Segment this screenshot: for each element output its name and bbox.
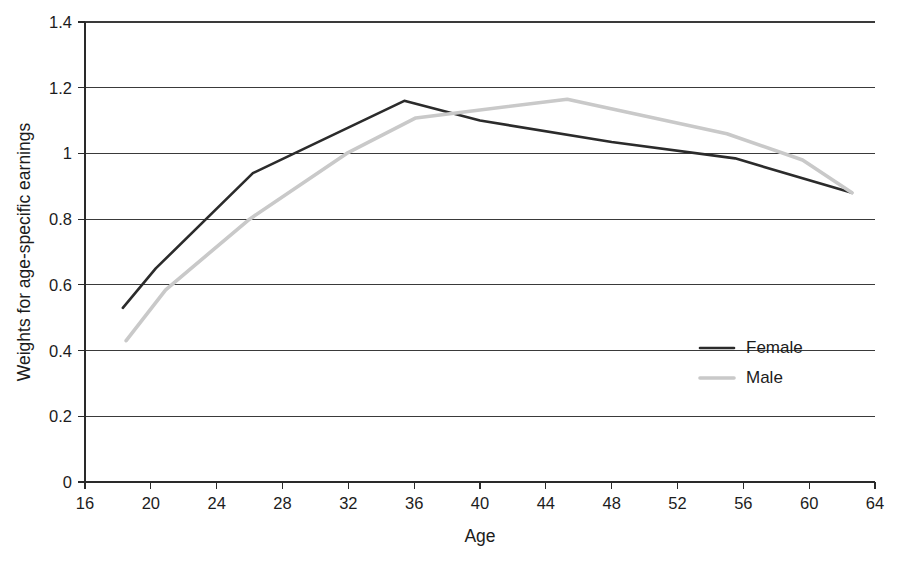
x-tick-label: 16: [76, 494, 94, 512]
line-chart: 00.20.40.60.811.21.4 1620242832364044485…: [0, 0, 898, 561]
y-tick-label: 0.6: [49, 276, 72, 294]
x-tick-label: 28: [273, 494, 291, 512]
y-tick-marks: [78, 22, 85, 482]
y-axis-title: Weights for age-specific earnings: [14, 123, 34, 382]
x-tick-label: 48: [602, 494, 620, 512]
x-tick-label: 40: [471, 494, 489, 512]
y-tick-label: 0.2: [49, 407, 72, 425]
x-tick-labels: 16202428323640444852566064: [76, 494, 884, 512]
y-tick-label: 0: [63, 473, 72, 491]
x-tick-label: 64: [866, 494, 884, 512]
chart-container: 00.20.40.60.811.21.4 1620242832364044485…: [0, 0, 898, 561]
series-line-female: [123, 101, 852, 308]
x-tick-label: 44: [537, 494, 555, 512]
y-tick-label: 1.4: [49, 13, 72, 31]
x-tick-label: 52: [668, 494, 686, 512]
data-series: [123, 99, 852, 341]
x-tick-marks: [85, 482, 875, 489]
legend-label-female: Female: [746, 338, 803, 357]
x-tick-label: 20: [142, 494, 160, 512]
y-tick-label: 0.8: [49, 210, 72, 228]
x-axis-title: Age: [464, 526, 495, 546]
x-tick-label: 32: [339, 494, 357, 512]
y-tick-label: 1: [63, 144, 72, 162]
legend-label-male: Male: [746, 368, 783, 387]
x-tick-label: 56: [734, 494, 752, 512]
chart-legend: FemaleMale: [700, 338, 803, 387]
x-tick-label: 36: [405, 494, 423, 512]
y-tick-labels: 00.20.40.60.811.21.4: [49, 13, 72, 491]
y-tick-label: 0.4: [49, 342, 72, 360]
y-tick-label: 1.2: [49, 79, 72, 97]
x-tick-label: 24: [207, 494, 225, 512]
x-tick-label: 60: [800, 494, 818, 512]
series-line-male: [126, 99, 852, 341]
